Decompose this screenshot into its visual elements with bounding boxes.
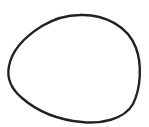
drawing-canvas bbox=[0, 0, 149, 127]
closed-curve-outline bbox=[8, 15, 139, 123]
